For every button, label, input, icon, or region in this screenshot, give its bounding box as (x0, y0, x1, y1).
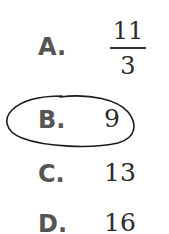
selection-oval-icon (0, 0, 169, 234)
